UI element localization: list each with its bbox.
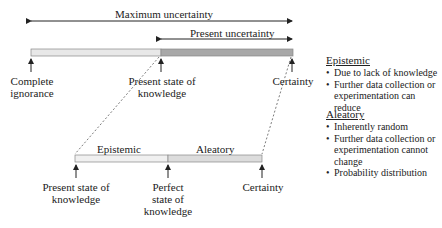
zoom-line-left [75, 57, 159, 154]
complete-ignorance-label: Complete ignorance [10, 75, 54, 99]
top-bar-known [31, 49, 161, 56]
top-bar-uncertain [161, 49, 293, 56]
legend-aleatory-title: Aleatory [326, 108, 442, 121]
aleatory-bar-label: Aleatory [196, 143, 234, 155]
certainty-label: Certainty [270, 75, 316, 87]
legend-item: Due to lack of knowledge [326, 67, 442, 79]
max-uncertainty-label: Maximum uncertainty [115, 8, 213, 20]
legend-item: Further data collection or experimentati… [326, 133, 442, 168]
bottom-certainty-label: Certainty [240, 181, 286, 193]
epistemic-bar-label: Epistemic [97, 143, 141, 155]
legend-item: Inherently random [326, 121, 442, 133]
bottom-bar-aleatory [168, 155, 262, 162]
present-state-label: Present state of knowledge [126, 75, 198, 99]
bottom-bar-epistemic [75, 155, 168, 162]
perfect-state-label: Perfect state of knowledge [140, 181, 196, 217]
legend-epistemic: Epistemic Due to lack of knowledge Furth… [326, 54, 442, 113]
zoom-line-right [262, 57, 291, 154]
legend-item: Probability distribution [326, 167, 442, 179]
bottom-present-state-label: Present state of knowledge [40, 181, 112, 205]
present-uncertainty-label: Present uncertainty [190, 27, 275, 39]
legend-epistemic-title: Epistemic [326, 54, 442, 67]
legend-aleatory: Aleatory Inherently random Further data … [326, 108, 442, 179]
